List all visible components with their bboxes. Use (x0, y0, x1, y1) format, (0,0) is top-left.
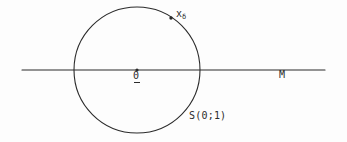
x-delta-subscript: δ (182, 13, 186, 21)
x-delta-label: xδ (176, 9, 186, 21)
space-m-label: M (279, 70, 285, 80)
figure-canvas (0, 0, 347, 142)
origin-label: 0 (133, 71, 140, 83)
sphere-label: S(0;1) (189, 111, 226, 121)
origin-zero: 0 (133, 70, 139, 81)
math-figure: xδ 0 S(0;1) M (0, 0, 347, 142)
x-delta-dot (169, 16, 172, 19)
origin-underbar (134, 82, 140, 83)
